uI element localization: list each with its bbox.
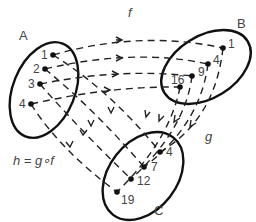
function-h-label: h = g∘f	[13, 153, 55, 168]
set-a-element-dot	[37, 81, 43, 87]
set-a-element: 2	[33, 62, 40, 76]
set-b-element: 16	[171, 73, 185, 87]
set-a-label: A	[19, 28, 28, 43]
set-b-element-dot	[205, 61, 211, 67]
set-b-element: 1	[228, 37, 235, 51]
set-c-element-dot	[157, 149, 163, 155]
set-b: B 1 4 9 16	[171, 16, 246, 90]
set-a-element: 4	[19, 97, 26, 111]
set-b-label: B	[237, 16, 246, 31]
g-arrows	[117, 48, 223, 192]
set-c-element-dot	[128, 176, 134, 182]
set-c-element-dot	[114, 189, 120, 195]
set-c-element-dot	[141, 164, 147, 170]
set-a-element: 3	[28, 77, 35, 91]
set-a: A 1 2 3 4	[19, 28, 56, 111]
set-b-element: 9	[198, 65, 205, 79]
set-a-element-dot	[42, 66, 48, 72]
function-g-label: g	[205, 129, 213, 144]
function-f-label: f	[128, 5, 133, 20]
set-c-element: 12	[137, 174, 151, 188]
set-a-element-dot	[50, 52, 56, 58]
f-arrows	[31, 37, 223, 104]
set-a-element-dot	[28, 101, 34, 107]
set-c-element: 19	[121, 193, 135, 207]
set-c-element: 7	[151, 160, 158, 174]
set-b-element-dot	[189, 73, 195, 79]
set-c-label: C	[154, 203, 163, 218]
set-b-element: 4	[213, 53, 220, 67]
set-c-element: 4	[166, 145, 173, 159]
function-composition-diagram: A 1 2 3 4 B 1 4 9 16 C 4 7 12 19 f g h =…	[0, 0, 256, 222]
h-arrows	[31, 55, 160, 192]
set-b-element-dot	[220, 45, 226, 51]
set-a-element: 1	[41, 48, 48, 62]
set-c: C 4 7 12 19	[114, 145, 173, 218]
